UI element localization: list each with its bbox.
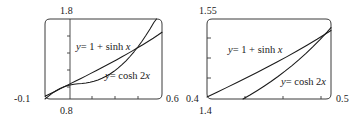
right-panel-y-min-label: 0.4	[186, 93, 199, 104]
right-panel-label-sinh-expr: = 1 + sinh	[233, 44, 275, 55]
right-panel-label-sinh-x: x	[278, 44, 283, 55]
right-panel-label-sinh: y= 1 + sinh x	[228, 44, 282, 56]
right-panel-x-min-label: 1.4	[199, 105, 212, 116]
right-panel: 1.55 0.4 1.4 0.5 y= 1 + sinh x y= cosh 2…	[0, 0, 363, 124]
right-panel-label-cosh: y= cosh 2x	[281, 76, 326, 88]
right-panel-x-max-label: 0.5	[336, 93, 349, 104]
figure-two-panel-hyperbolic-plots: 1.8 -0.1 0.8 0.6 y= 1 + sinh x y= cosh 2…	[0, 0, 363, 124]
right-panel-label-cosh-x: x	[321, 76, 326, 87]
right-panel-y-max-label: 1.55	[199, 5, 217, 16]
right-panel-label-cosh-expr: = cosh 2	[286, 76, 322, 87]
right-panel-graphics	[0, 0, 363, 124]
